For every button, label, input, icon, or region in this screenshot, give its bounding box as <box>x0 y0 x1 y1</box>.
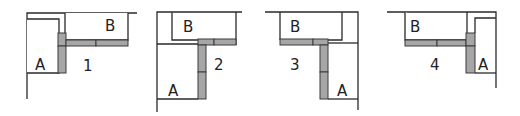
diagram-3-number: 3 <box>290 56 300 74</box>
diagram-3: B A 3 <box>265 12 358 110</box>
diagram-1-cabinet-b <box>65 13 128 40</box>
diagram-3-horizontal-filler-right <box>313 39 328 45</box>
corner-layouts-figure: A B 1 B A 2 B A 3 <box>0 0 520 116</box>
diagram-1: A B 1 <box>27 13 137 99</box>
diagram-3-vertical-filler-top <box>320 45 328 72</box>
diagram-1-horizontal-filler-right <box>96 40 128 46</box>
diagram-1-corner-filler <box>58 33 66 46</box>
diagram-4-vertical-filler <box>466 46 475 73</box>
diagram-4-cabinet-a-top <box>475 18 496 33</box>
diagram-2-vertical-filler-bottom <box>198 72 206 99</box>
diagram-4-corner-filler <box>466 33 475 46</box>
diagram-2-label-a: A <box>168 82 179 100</box>
diagram-2-horizontal-filler-right <box>214 39 236 45</box>
diagram-3-label-b: B <box>290 18 300 36</box>
diagram-3-label-a: A <box>337 82 348 100</box>
diagram-3-horizontal-filler-left <box>280 39 313 45</box>
diagram-2-horizontal-filler-left <box>198 39 214 45</box>
diagram-4-horizontal-filler-left <box>405 40 437 46</box>
diagram-4-horizontal-filler-right <box>437 40 466 46</box>
diagram-3-vertical-filler-bottom <box>320 72 328 99</box>
diagram-2: B A 2 <box>157 12 242 112</box>
diagram-1-number: 1 <box>83 57 93 75</box>
diagram-4-label-b: B <box>410 18 420 36</box>
diagram-1-label-a: A <box>35 56 46 74</box>
diagram-4-label-a: A <box>478 56 489 74</box>
diagram-2-label-b: B <box>183 18 193 36</box>
diagram-2-number: 2 <box>214 56 224 74</box>
diagram-1-label-b: B <box>105 17 115 35</box>
diagram-1-horizontal-filler-left <box>66 40 96 46</box>
diagram-4-number: 4 <box>430 56 440 74</box>
diagram-4: B A 4 <box>387 12 496 88</box>
diagram-3-cabinet-b-right <box>328 12 342 40</box>
diagram-2-vertical-filler-top <box>198 45 206 72</box>
diagram-1-vertical-filler <box>58 46 66 73</box>
